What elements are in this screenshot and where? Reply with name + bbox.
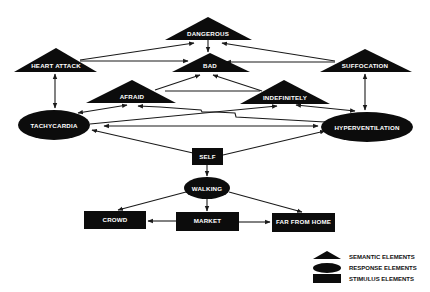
node-market: MARKET xyxy=(176,212,239,231)
legend-stimulus-label: STIMULUS ELEMENTS xyxy=(349,276,414,282)
legend-rectangle-icon xyxy=(313,274,341,283)
node-label-walking: WALKING xyxy=(192,185,223,192)
node-walking: WALKING xyxy=(184,177,230,199)
node-label-hyperventilation: HYPERVENTILATION xyxy=(334,124,400,131)
node-afraid: AFRAID xyxy=(86,80,176,103)
node-label-heart-attack: HEART ATTACK xyxy=(31,62,81,69)
node-label-suffocation: SUFFOCATION xyxy=(342,62,389,69)
edge-afraid-bad xyxy=(155,75,200,90)
node-indefinitely: INDEFINITELY xyxy=(240,80,330,104)
node-label-dangerous: DANGEROUS xyxy=(187,30,229,37)
legend-response-label: RESPONSE ELEMENTS xyxy=(349,265,417,271)
edge-hyperventilation-afraid-b xyxy=(215,112,325,122)
node-label-tachycardia: TACHYCARDIA xyxy=(30,122,77,129)
node-far-from-home: FAR FROM HOME xyxy=(272,213,335,232)
legend-triangle-icon xyxy=(313,251,341,259)
node-label-far-from-home: FAR FROM HOME xyxy=(276,218,331,225)
legend-semantic-label: SEMANTIC ELEMENTS xyxy=(349,254,415,260)
node-label-crowd: CROWD xyxy=(102,216,127,223)
edge-heartattack-dangerous xyxy=(80,43,194,60)
network-diagram: DANGEROUS BAD HEART ATTACK SUFFOCATION A… xyxy=(0,0,430,292)
edge-hyperventilation-afraid xyxy=(138,106,215,112)
node-crowd: CROWD xyxy=(84,211,146,229)
node-heart-attack: HEART ATTACK xyxy=(14,48,97,72)
edge-self-tachycardia xyxy=(92,130,193,153)
node-label-afraid: AFRAID xyxy=(120,93,145,100)
edge-walking-farfromhome xyxy=(229,192,302,212)
edge-self-hyperventilation xyxy=(223,131,325,155)
node-tachycardia: TACHYCARDIA xyxy=(18,110,90,140)
node-dangerous: DANGEROUS xyxy=(165,17,252,40)
edge-hyperventilation-indefinitely xyxy=(296,105,355,111)
node-label-market: MARKET xyxy=(194,217,222,224)
edge-walking-crowd xyxy=(118,192,186,210)
legend-ellipse-icon xyxy=(313,263,341,273)
edge-tachycardia-afraid xyxy=(78,105,127,113)
edge-suffocation-dangerous xyxy=(222,43,335,61)
node-label-bad: BAD xyxy=(203,62,217,69)
node-label-self: SELF xyxy=(199,153,216,160)
legend: SEMANTIC ELEMENTS RESPONSE ELEMENTS STIM… xyxy=(313,251,417,283)
node-hyperventilation: HYPERVENTILATION xyxy=(321,112,413,142)
edge-indefinitely-bad xyxy=(213,75,262,91)
node-self: SELF xyxy=(192,148,223,165)
node-label-indefinitely: INDEFINITELY xyxy=(263,94,308,101)
